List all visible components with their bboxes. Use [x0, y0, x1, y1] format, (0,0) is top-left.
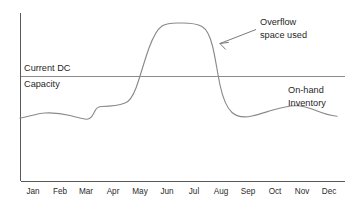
x-tick-label: Sep: [241, 187, 256, 196]
overflow-label-line2: space used: [260, 30, 307, 40]
onhand-label-line1: On-hand: [288, 85, 324, 95]
x-tick-label: Dec: [322, 187, 337, 196]
x-tick-label: Feb: [53, 187, 68, 196]
x-tick-label: Mar: [79, 187, 93, 196]
capacity-label-line1: Current DC: [24, 63, 71, 73]
x-tick-label: May: [132, 187, 148, 196]
capacity-label-line2: Capacity: [24, 79, 60, 89]
x-tick-label: Jun: [160, 187, 174, 196]
x-tick-label: Oct: [269, 187, 282, 196]
x-tick-label: Apr: [107, 187, 120, 196]
x-tick-label: Nov: [295, 187, 310, 196]
x-tick-label: Jul: [189, 187, 200, 196]
x-tick-label: Jan: [26, 187, 40, 196]
overflow-label-line1: Overflow: [260, 17, 297, 27]
inventory-capacity-chart: Current DC Capacity Overflow space used …: [0, 0, 358, 207]
onhand-label-line2: Inventory: [288, 98, 326, 108]
x-tick-label: Aug: [214, 187, 229, 196]
chart-canvas: Current DC Capacity Overflow space used …: [0, 0, 358, 207]
